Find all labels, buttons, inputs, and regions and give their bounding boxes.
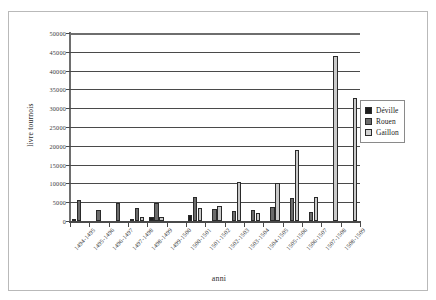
legend-label-gaillon: Gaillon [376,128,399,137]
cropped-header-text: · ·· ··· · [96,0,128,3]
bar-gaillon-1505-1506 [295,150,300,221]
x-axis-tick-labels: 1494-14951495-14961496-14971497-14981498… [70,223,362,273]
legend-item-gaillon: Gaillon [365,127,399,138]
legend-label-rouen: Rouen [376,117,396,126]
legend-swatch-gaillon [365,129,372,136]
bar-group [341,33,360,221]
bar-group [147,33,166,221]
y-axis-tick-label: 15000 [50,161,66,168]
plot-area [70,33,360,221]
y-axis-tick-label: 5000 [53,199,66,206]
bar-gaillon-1502-1503 [237,182,242,221]
y-axis-title: livre tournois [23,90,37,160]
y-axis-tick [66,221,70,222]
bar-group [263,33,282,221]
bar-rouen-1495-1496 [96,210,101,221]
bar-group [205,33,224,221]
bar-rouen-1498-1499 [154,203,159,221]
chart-figure: · ·· ··· · 05000100001500020000250003000… [0,0,436,300]
bar-gaillon-1507-1508 [333,56,338,221]
y-axis-title-text: livre tournois [26,103,35,147]
bar-dville-1498-1499 [149,217,154,222]
y-axis-tick-label: 35000 [50,86,66,93]
bar-group [186,33,205,221]
bar-rouen-1494-1495 [77,200,82,221]
legend-item-deville: Déville [365,105,399,116]
y-axis-tick-label: 45000 [50,48,66,55]
bar-group [244,33,263,221]
bar-rouen-1503-1504 [251,210,256,221]
bar-gaillon-1497-1498 [140,217,145,222]
y-axis-tick-label: 30000 [50,105,66,112]
chart-legend: DévilleRouenGaillon [360,100,405,143]
bar-gaillon-1498-1499 [159,217,164,221]
bar-group [89,33,108,221]
bar-group [321,33,340,221]
chart-frame: 0500010000150002000025000300003500040000… [8,11,428,291]
bar-dville-1497-1498 [130,219,135,221]
legend-swatch-deville [365,107,372,114]
bar-group [109,33,128,221]
cropped-header-strip: · ·· ··· · [0,0,436,8]
y-axis-tick-label: 50000 [50,30,66,37]
legend-item-rouen: Rouen [365,116,399,127]
bar-dville-1500-1501 [188,215,193,221]
x-axis-title: anni [9,274,429,283]
legend-label-deville: Déville [376,106,398,115]
bar-dville-1494-1495 [72,219,77,221]
bar-gaillon-1500-1501 [198,208,203,221]
bar-group [225,33,244,221]
bar-rouen-1500-1501 [193,197,198,221]
bar-rouen-1496-1497 [116,203,121,221]
bar-group [283,33,302,221]
legend-swatch-rouen [365,118,372,125]
bar-gaillon-1506-1507 [314,197,319,221]
bar-group [128,33,147,221]
bar-rouen-1504-1505 [270,207,275,221]
bar-rouen-1501-1502 [212,209,217,221]
bar-gaillon-1504-1505 [275,183,280,221]
bar-rouen-1505-1506 [290,198,295,221]
gridline [70,221,360,222]
y-axis-tick-label: 25000 [50,124,66,131]
bar-rouen-1502-1503 [232,211,237,221]
bar-rouen-1497-1498 [135,208,140,221]
y-axis-tick-label: 40000 [50,67,66,74]
bar-gaillon-1501-1502 [217,206,222,221]
y-axis-tick-label: 10000 [50,180,66,187]
y-axis-tick-label: 20000 [50,142,66,149]
bar-gaillon-1508-1509 [353,98,358,221]
bar-gaillon-1503-1504 [256,213,261,221]
bar-rouen-1506-1507 [309,212,314,221]
bar-group [302,33,321,221]
bar-group [70,33,89,221]
y-axis-tick-labels: 0500010000150002000025000300003500040000… [9,12,66,222]
bar-group [167,33,186,221]
